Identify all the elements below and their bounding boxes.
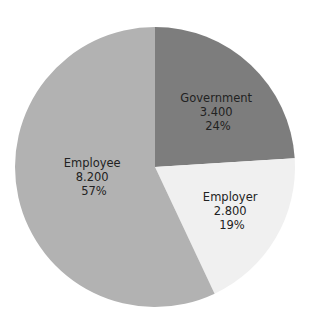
government-value: 3.400 — [200, 105, 233, 119]
government-name: Government — [180, 91, 252, 105]
employer-name: Employer — [203, 190, 258, 204]
employee-percent: 57% — [81, 184, 107, 198]
government-percent: 24% — [205, 119, 231, 133]
pie-chart: Government 3.400 24% Employer 2.800 19% … — [0, 0, 310, 321]
employee-name: Employee — [64, 156, 121, 170]
pie-slices — [15, 27, 295, 307]
employee-value: 8.200 — [76, 170, 109, 184]
employer-percent: 19% — [219, 218, 245, 232]
employer-value: 2.800 — [214, 204, 247, 218]
